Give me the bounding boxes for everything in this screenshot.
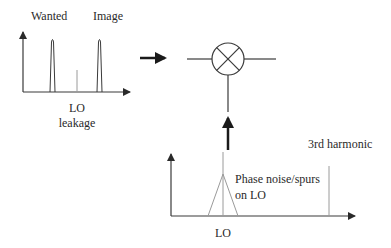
lo-leakage-label-line1: LO xyxy=(62,102,92,115)
lo-leakage-label-line2: leakage xyxy=(52,117,102,130)
lo-label: LO xyxy=(208,227,238,240)
wanted-label: Wanted xyxy=(31,10,67,23)
mixer-symbol xyxy=(187,43,276,112)
phase-noise-label-line2: on LO xyxy=(235,189,266,202)
third-harmonic-label: 3rd harmonic xyxy=(308,138,372,151)
image-label: Image xyxy=(93,10,123,23)
phase-noise-label-line1: Phase noise/spurs xyxy=(235,173,320,186)
image-peak xyxy=(97,40,102,93)
wanted-peak xyxy=(50,40,55,93)
input-spectrum-chart xyxy=(23,32,130,92)
